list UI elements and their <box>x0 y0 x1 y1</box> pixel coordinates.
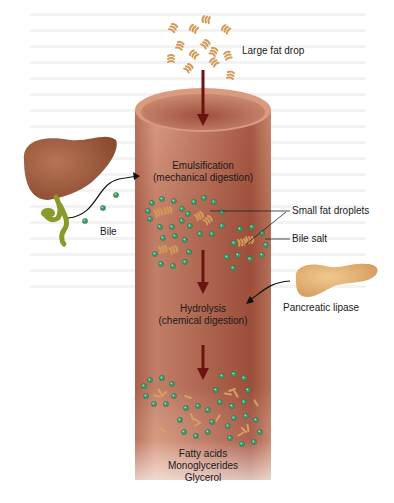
label-small-fat-droplets: Small fat droplets <box>292 205 369 217</box>
label-emulsification: Emulsification (mechanical digestion) <box>143 160 263 184</box>
label-pancreatic-lipase: Pancreatic lipase <box>283 302 359 314</box>
label-bile: Bile <box>100 226 117 238</box>
pancreas-illustration <box>296 264 378 297</box>
label-hydrolysis-subtitle: (chemical digestion) <box>143 315 263 327</box>
label-monoglycerides: Monoglycerides <box>143 460 263 472</box>
label-glycerol: Glycerol <box>143 472 263 484</box>
label-bile-salt: Bile salt <box>292 233 327 245</box>
label-hydrolysis-title: Hydrolysis <box>143 303 263 315</box>
label-fatty-acids: Fatty acids <box>143 448 263 460</box>
large-fat-drop-illustration <box>168 16 234 79</box>
fat-digestion-diagram <box>0 0 394 503</box>
label-emulsification-subtitle: (mechanical digestion) <box>143 172 263 184</box>
label-products: Fatty acids Monoglycerides Glycerol <box>143 448 263 484</box>
label-large-fat-drop: Large fat drop <box>242 45 304 57</box>
bile-salt-dots <box>82 192 118 223</box>
label-hydrolysis: Hydrolysis (chemical digestion) <box>143 303 263 327</box>
label-emulsification-title: Emulsification <box>143 160 263 172</box>
